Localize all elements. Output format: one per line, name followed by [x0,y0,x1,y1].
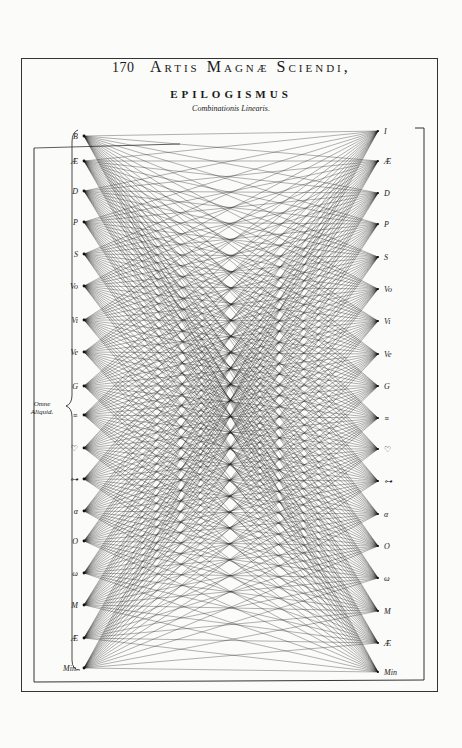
right-node-label: Vi [384,317,410,326]
right-node-label: M [384,607,410,616]
left-node-label: Æ [52,634,78,643]
left-node-label: D [52,187,78,196]
right-node-label: ♡ [384,445,410,454]
right-node-label: Ve [384,350,410,359]
left-node-label: Ve [52,348,78,357]
right-node-label: ⊶ [384,477,410,486]
left-node-label: Vi [52,316,78,325]
right-node-label: Æ [384,157,410,166]
left-brace [66,130,80,670]
left-node-label: Vo [52,282,78,291]
right-node-label: O [384,542,410,551]
left-node-label: ω [52,569,78,578]
left-node-label: B [52,132,78,141]
left-node-label: ⊶ [52,475,78,484]
right-node-label: Min [384,668,410,677]
left-node-label: α [52,507,78,516]
right-node-label: S [384,253,410,262]
left-node-label: P [52,218,78,227]
right-node-label: ≡ [384,414,410,423]
right-node-label: G [384,382,410,391]
left-node-label: Æ [52,157,78,166]
brace-caption-line2: Aliquid. [20,408,64,416]
right-node-label: α [384,510,410,519]
right-node-label: D [384,189,410,198]
connecting-lines [83,130,379,673]
left-node-label: G [52,382,78,391]
right-node-label: I [384,127,410,136]
left-node-label: ♡ [52,444,78,453]
brace-caption-line1: Omne [20,400,64,408]
left-node-label: M [52,601,78,610]
right-node-label: Vo [384,285,410,294]
left-node-label: O [52,537,78,546]
brace-caption: Omne Aliquid. [20,400,64,416]
left-node-label: S [52,250,78,259]
right-node-label: P [384,220,410,229]
right-node-label: ω [384,574,410,583]
left-node-label: Min. [52,664,78,673]
right-node-label: Æ [384,639,410,648]
